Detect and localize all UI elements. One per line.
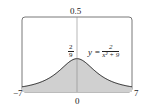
equation-label: y = 2 x² + 9 [88,44,119,59]
x-tick-left: −7 [13,89,23,98]
x-tick-right: 7 [134,89,139,98]
y-tick-top: 0.5 [70,7,81,16]
peak-label: 2 9 [68,44,74,59]
x-tick-zero: 0 [75,97,80,106]
